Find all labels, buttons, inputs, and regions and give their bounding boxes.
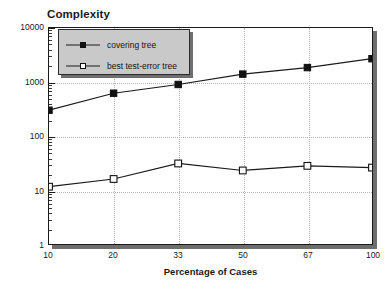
- x-axis-tick-label: 100: [366, 250, 380, 260]
- x-axis-tick-label: 10: [43, 250, 52, 260]
- x-axis-tick-labels: 1020335067100: [48, 250, 373, 264]
- legend-item-label: covering tree: [107, 40, 156, 50]
- series-2: [49, 160, 372, 190]
- legend-marker-sample: [65, 60, 101, 72]
- data-point-marker: [49, 183, 52, 190]
- x-axis-tick-label: 20: [108, 250, 117, 260]
- data-point-marker: [110, 90, 116, 96]
- chart-title: Complexity: [47, 8, 110, 20]
- y-axis-tick-label: 1: [39, 240, 44, 250]
- data-point-marker: [304, 162, 311, 169]
- chart-figure: Complexity 110100100010000 1020335067100…: [0, 0, 389, 291]
- open-square-icon: [80, 63, 86, 69]
- x-axis-tick-label: 50: [238, 250, 247, 260]
- x-axis-title: Percentage of Cases: [48, 266, 373, 277]
- y-axis-tick-label: 100: [30, 131, 44, 141]
- data-point-marker: [369, 164, 372, 171]
- data-point-marker: [240, 71, 246, 77]
- data-point-marker: [175, 81, 181, 87]
- legend-item-2: best test-error tree: [65, 58, 177, 74]
- filled-square-icon: [80, 42, 86, 48]
- data-point-marker: [49, 107, 52, 113]
- y-axis-tick-label: 10000: [20, 22, 44, 32]
- legend-item-label: best test-error tree: [107, 61, 177, 71]
- data-point-marker: [304, 64, 310, 70]
- x-axis-tick-label: 33: [173, 250, 182, 260]
- data-point-marker: [110, 176, 117, 183]
- x-axis-tick-label: 67: [303, 250, 312, 260]
- data-point-marker: [239, 167, 246, 174]
- legend-marker-sample: [65, 39, 101, 51]
- y-axis-tick-label: 10: [35, 186, 44, 196]
- data-point-marker: [369, 56, 372, 62]
- legend-item-1: covering tree: [65, 37, 156, 53]
- chart-legend: covering treebest test-error tree: [58, 29, 190, 75]
- data-point-marker: [175, 160, 182, 167]
- y-axis-tick-labels: 110100100010000: [0, 27, 44, 245]
- y-axis-tick-label: 1000: [25, 77, 44, 87]
- series-line: [49, 163, 372, 186]
